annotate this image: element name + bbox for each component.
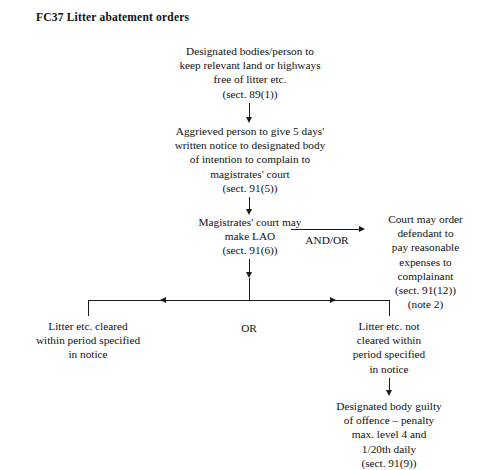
node-line: (sect. 91(5)) (135, 181, 365, 195)
node-line: free of litter etc. (150, 72, 350, 86)
connector-n3-n4 (291, 229, 363, 230)
node-line: Magistrates' court may (159, 215, 341, 229)
flow-node-offence-penalty: Designated body guilty of offence – pena… (315, 399, 463, 470)
edge-label-and-or: AND/OR (292, 233, 362, 247)
node-line: Designated bodies/person to (150, 44, 350, 58)
flow-node-court-may-order-expenses: Court may order defendant to pay reasona… (368, 212, 483, 311)
node-line: max. level 4 and (315, 427, 463, 441)
node-line: of offence – penalty (315, 413, 463, 427)
node-line: 1/20th daily (315, 442, 463, 456)
node-line: (sect. 89(1)) (150, 87, 350, 101)
node-line: written notice to designated body (135, 138, 365, 152)
node-line: Court may order (368, 212, 483, 226)
arrowhead-down-n1-n2 (246, 117, 252, 123)
connector-split-n6-drop (389, 300, 390, 316)
arrowhead-right-split-n6 (330, 297, 336, 303)
node-line: Aggrieved person to give 5 days' (135, 124, 365, 138)
node-line: within period specified (13, 333, 163, 347)
node-line: (sect. 91(12)) (368, 283, 483, 297)
node-line: expenses to (368, 255, 483, 269)
page-title: FC37 Litter abatement orders (36, 11, 189, 23)
node-line: Designated body guilty (315, 399, 463, 413)
node-line: magistrates' court (135, 167, 365, 181)
node-line: (sect. 91(9)) (315, 456, 463, 470)
node-line: period specified (328, 347, 450, 361)
edge-label-or: OR (214, 321, 284, 335)
node-line: complainant (368, 269, 483, 283)
node-line: in notice (13, 347, 163, 361)
arrowhead-down-n6-n7 (386, 390, 392, 396)
flow-node-designated-bodies: Designated bodies/person to keep relevan… (150, 44, 350, 101)
flowchart-canvas: FC37 Litter abatement orders Designated … (0, 0, 493, 470)
flow-node-litter-cleared: Litter etc. cleared within period specif… (13, 319, 163, 362)
node-line: Litter etc. not (328, 319, 450, 333)
node-line: defendant to (368, 226, 483, 240)
arrowhead-right-n3-n4 (359, 226, 365, 232)
flow-node-litter-not-cleared: Litter etc. not cleared within period sp… (328, 319, 450, 376)
node-line: of intention to complain to (135, 152, 365, 166)
arrowhead-left-split-n5 (160, 297, 166, 303)
node-line: Litter etc. cleared (13, 319, 163, 333)
flow-node-aggrieved-person: Aggrieved person to give 5 days' written… (135, 124, 365, 195)
node-line: in notice (328, 362, 450, 376)
connector-split-n5-drop (88, 300, 89, 316)
node-line: keep relevant land or highways (150, 58, 350, 72)
connector-split-stem (249, 278, 250, 301)
node-line: cleared within (328, 333, 450, 347)
node-line: pay reasonable (368, 240, 483, 254)
connector-split-bus (88, 300, 389, 301)
